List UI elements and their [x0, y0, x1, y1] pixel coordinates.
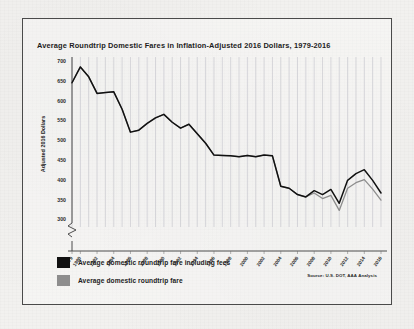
svg-text:Adjusted 2016 Dollars: Adjusted 2016 Dollars	[40, 116, 46, 172]
svg-text:2016: 2016	[373, 255, 383, 267]
legend-label-base-fare: Average domestic roundtrip fare	[78, 277, 183, 284]
legend-swatch-base-fare	[57, 275, 70, 286]
svg-text:400: 400	[57, 177, 66, 183]
source-note: Source: U.S. DOT, AAA Analysis	[307, 273, 377, 278]
svg-text:450: 450	[57, 157, 66, 163]
svg-text:650: 650	[57, 78, 66, 84]
svg-text:550: 550	[57, 117, 66, 123]
legend-swatch-including-fees	[57, 257, 70, 268]
y-axis: 300350400450500550600650700	[57, 57, 76, 251]
svg-text:600: 600	[57, 98, 66, 104]
legend-item: Average domestic roundtrip fare includin…	[57, 257, 357, 268]
svg-text:300: 300	[57, 216, 66, 222]
legend-label-including-fees: Average domestic roundtrip fare includin…	[78, 259, 230, 266]
y-axis-title: Adjusted 2016 Dollars	[40, 116, 46, 172]
svg-text:700: 700	[57, 58, 66, 64]
figure-frame: Average Roundtrip Domestic Fares in Infl…	[22, 18, 392, 305]
svg-text:350: 350	[57, 197, 66, 203]
chart-series	[72, 67, 381, 210]
svg-text:2014: 2014	[356, 255, 366, 267]
svg-text:500: 500	[57, 137, 66, 143]
